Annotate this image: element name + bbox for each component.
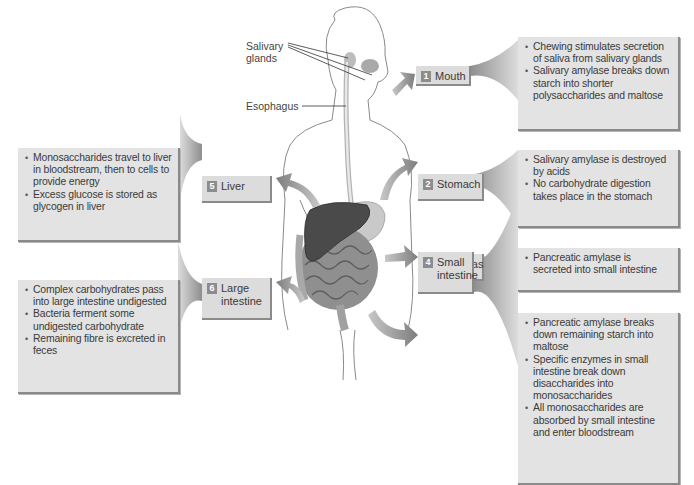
step-1-number-badge: 1 xyxy=(421,71,431,82)
step-3-description: Pancreatic amylase is secreted into smal… xyxy=(518,248,680,292)
step-4-bullet: Pancreatic amylase breaks down remaining… xyxy=(525,317,672,354)
step-4-label: 4 Small intestine xyxy=(418,252,474,294)
step-5-description: Monosaccharides travel to liver in blood… xyxy=(18,148,180,242)
step-3-bullet: Pancreatic amylase is secreted into smal… xyxy=(525,252,672,276)
salivary-glands-line1: Salivary xyxy=(246,40,283,52)
step-6-organ: Large intestine xyxy=(221,282,262,307)
step-4-bullet: All monosaccharides are absorbed by smal… xyxy=(525,402,672,439)
arrow-to-stomach xyxy=(380,158,418,200)
step-6-organ-line2: intestine xyxy=(221,295,262,308)
step-2-label: 2 Stomach xyxy=(418,174,484,201)
step-4-bullet: Specific enzymes in small intestine brea… xyxy=(525,354,672,403)
step-2-number-badge: 2 xyxy=(423,179,433,190)
salivary-glands-annotation: Salivary glands xyxy=(246,40,283,64)
step-6-bullet: Bacteria ferment some undigested carbohy… xyxy=(25,308,172,332)
step-5-number-badge: 5 xyxy=(207,181,217,192)
step-4-number-badge: 4 xyxy=(423,257,433,268)
step-4-description: Pancreatic amylase breaks down remaining… xyxy=(518,313,680,485)
arrow-to-pancreas xyxy=(385,245,418,268)
step-1-bullet: Chewing stimulates secretion of saliva f… xyxy=(525,41,672,65)
step-5-bullet: Excess glucose is stored as glycogen in … xyxy=(25,189,172,213)
step-5-label: 5 Liver xyxy=(202,176,272,203)
arrow-to-mouth xyxy=(392,72,415,96)
step-5-organ: Liver xyxy=(221,180,245,193)
step-1-bullet: Salivary amylase breaks down starch into… xyxy=(525,65,672,102)
step-6-bullet: Remaining fibre is excreted in feces xyxy=(25,333,172,357)
step-6-bullet: Complex carbohydrates pass into large in… xyxy=(25,284,172,308)
step-2-description: Salivary amylase is destroyed by acids N… xyxy=(518,150,680,228)
step-2-bullet: Salivary amylase is destroyed by acids xyxy=(525,154,672,178)
step-6-description: Complex carbohydrates pass into large in… xyxy=(18,280,180,394)
step-2-bullet: No carbohydrate digestion takes place in… xyxy=(525,178,672,202)
step-4-organ-line2: intestine xyxy=(437,269,478,282)
step-6-number-badge: 6 xyxy=(207,283,217,294)
step-1-description: Chewing stimulates secretion of saliva f… xyxy=(518,37,680,131)
step-4-organ-line1: Small xyxy=(437,256,478,269)
step-2-organ: Stomach xyxy=(437,178,480,191)
step-1-organ: Mouth xyxy=(435,70,466,83)
step-1-label: 1 Mouth xyxy=(416,66,471,86)
step-4-organ: Small intestine xyxy=(437,256,478,281)
step-6-label: 6 Large intestine xyxy=(202,278,272,320)
step-5-bullet: Monosaccharides travel to liver in blood… xyxy=(25,152,172,189)
esophagus-annotation: Esophagus xyxy=(246,100,299,112)
salivary-glands-line2: glands xyxy=(246,52,283,64)
step-6-organ-line1: Large xyxy=(221,282,262,295)
arrow-to-liver xyxy=(276,173,320,208)
